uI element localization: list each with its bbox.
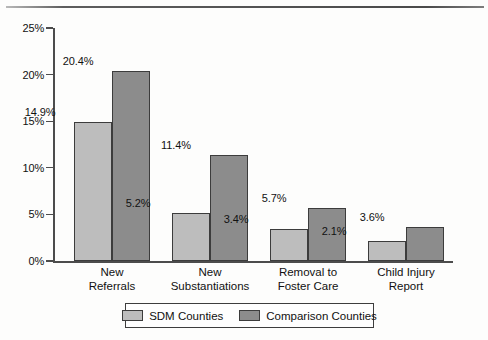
y-axis-tick-label: 25%: [4, 22, 44, 34]
y-axis-tick-label: 10%: [4, 162, 44, 174]
legend-item-sdm: SDM Counties: [122, 310, 223, 322]
legend-label-comparison: Comparison Counties: [266, 310, 377, 322]
legend-item-comparison: Comparison Counties: [239, 310, 377, 322]
y-axis-tick: [46, 27, 53, 28]
y-axis-tick-label: 5%: [4, 208, 44, 220]
bar-sdm[interactable]: [74, 122, 112, 261]
x-axis-category-label: Child InjuryReport: [377, 266, 435, 293]
x-axis-label-line: Referrals: [89, 280, 136, 294]
y-axis-tick: [46, 260, 53, 261]
legend-label-sdm: SDM Counties: [149, 310, 223, 322]
chart-figure: 0%5%10%15%20%25% NewReferralsNewSubstant…: [0, 0, 488, 340]
bar-value-label: 5.2%: [126, 197, 151, 209]
x-axis-label-line: New: [171, 266, 250, 280]
bar-comparison[interactable]: [210, 155, 248, 261]
x-axis-label-line: New: [89, 266, 136, 280]
bar-value-label: 11.4%: [161, 139, 191, 151]
bar-comparison[interactable]: [406, 227, 444, 261]
y-axis-tick: [46, 74, 53, 75]
y-axis-tick: [46, 214, 53, 215]
y-axis-tick: [46, 121, 53, 122]
plot-area: 0%5%10%15%20%25% NewReferralsNewSubstant…: [0, 0, 488, 340]
x-axis-label-line: Report: [377, 280, 435, 294]
y-axis-tick: [46, 167, 53, 168]
bar-value-label: 20.4%: [63, 55, 94, 67]
bar-sdm[interactable]: [172, 213, 210, 261]
x-axis-line: [53, 261, 453, 263]
x-axis-category-label: NewSubstantiations: [171, 266, 250, 293]
x-axis-category-label: NewReferrals: [89, 266, 136, 293]
x-axis-label-line: Child Injury: [377, 266, 435, 280]
bar-sdm[interactable]: [368, 241, 406, 261]
legend-swatch-icon-comparison: [239, 310, 260, 321]
bar-value-label: 2.1%: [322, 225, 347, 237]
x-axis-label-line: Substantiations: [171, 280, 250, 294]
x-axis-category-label: Removal toFoster Care: [278, 266, 339, 293]
bar-sdm[interactable]: [270, 229, 308, 261]
chart-legend: SDM Counties Comparison Counties: [125, 303, 374, 328]
bar-value-label: 5.7%: [262, 192, 287, 204]
x-axis-label-line: Foster Care: [278, 280, 339, 294]
bar-value-label: 3.4%: [224, 213, 249, 225]
y-axis-tick-label: 0%: [4, 255, 44, 267]
y-axis-tick-label: 20%: [4, 69, 44, 81]
x-axis-label-line: Removal to: [278, 266, 339, 280]
bars-area: [53, 28, 453, 261]
bar-comparison[interactable]: [112, 71, 150, 261]
bar-value-label: 14.9%: [25, 106, 56, 118]
legend-swatch-icon-sdm: [122, 310, 143, 321]
bar-group: [368, 28, 444, 261]
bar-value-label: 3.6%: [360, 211, 385, 223]
